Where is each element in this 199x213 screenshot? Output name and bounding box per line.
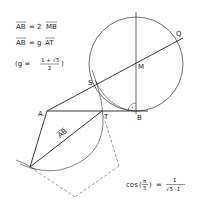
cos-paren-close: ) (149, 181, 152, 189)
eq1-rel: = 2 (29, 23, 42, 31)
label-s: S (88, 79, 93, 87)
segment-a-p (30, 111, 47, 167)
segment-p-t (30, 111, 102, 167)
label-q: Q (176, 30, 182, 38)
cos-equals: = (156, 181, 162, 189)
golden-ratio-diagram: A B T S M Q AB AB = 2 MB AB = g AT (g = … (0, 0, 199, 213)
cos-denominator: √5 -1 (166, 186, 180, 192)
eq3-close: ) (61, 60, 64, 68)
cos-lhs: cos (126, 181, 138, 189)
equation-cos-pi-5: cos ( π 5 ) = 1 √5 -1 (126, 177, 185, 192)
eq2-rhs: AT (45, 39, 54, 47)
eq1-lhs: AB (16, 23, 26, 31)
cos-arg-numerator: π (143, 178, 147, 184)
eq3-open: (g = (15, 60, 30, 68)
equation-ab-2mb: AB = 2 MB (16, 22, 57, 31)
eq2-lhs: AB (16, 39, 26, 47)
pentagon-edge-bottom-p (30, 167, 75, 197)
eq2-rel: = g (29, 39, 42, 47)
label-m: M (138, 63, 144, 71)
eq3-numerator: 1 + √5 (41, 57, 60, 63)
equation-golden-ratio: (g = 1 + √5 2 ) (15, 57, 64, 71)
equation-ab-gat: AB = g AT (16, 38, 55, 47)
label-a: A (38, 110, 43, 118)
label-b: B (137, 114, 142, 122)
line-a-q (47, 38, 183, 111)
label-t: T (103, 113, 109, 121)
pentagon-edge-right-bottom (75, 166, 119, 197)
eq1-rhs: MB (46, 23, 57, 31)
cos-numerator: 1 (173, 177, 177, 183)
cos-arg-denominator: 5 (143, 185, 147, 191)
right-angle-dot (132, 106, 133, 107)
eq3-denominator: 2 (48, 65, 52, 71)
cos-paren-open: ( (139, 181, 142, 189)
